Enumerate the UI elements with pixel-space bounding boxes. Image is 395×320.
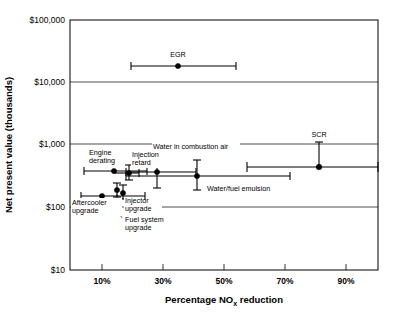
- aftercooler-upgrade-label-line2: upgrade: [72, 206, 98, 215]
- y-axis-title: Net present value (thousands): [3, 77, 14, 213]
- chart-figure: Net present value (thousands) $100,000 $…: [0, 0, 395, 320]
- y-tick-label-10: $10: [51, 265, 65, 275]
- injector-upgrade-marker[interactable]: [120, 190, 125, 195]
- x-axis-title: Percentage NOx reduction: [165, 294, 283, 307]
- injector-upgrade-label-line2: upgrade: [125, 204, 151, 213]
- chart-svg: Net present value (thousands) $100,000 $…: [0, 0, 395, 320]
- water-in-combustion-air-label: Water in combustion air: [153, 142, 229, 151]
- injection-retard-marker[interactable]: [126, 170, 131, 175]
- x-tick-label-90: 90%: [337, 276, 354, 286]
- y-tick-label-100000: $100,000: [30, 15, 66, 25]
- engine-derating-label-line2: derating: [89, 156, 115, 165]
- x-tick-label-10: 10%: [93, 276, 110, 286]
- injection-retard-label-line2: retard: [132, 158, 151, 167]
- x-tick-label-30: 30%: [154, 276, 171, 286]
- x-axis-title-post: reduction: [237, 294, 283, 305]
- fuel-system-upgrade-label-line2: upgrade: [125, 223, 151, 232]
- egr-label: EGR: [170, 50, 186, 59]
- y-tick-label-1000: $1,000: [39, 139, 65, 149]
- scr-marker[interactable]: [316, 164, 322, 170]
- fuel-system-marker[interactable]: [114, 187, 119, 192]
- water-fuel-emulsion-label: Water/fuel emulsion: [207, 184, 270, 193]
- x-tick-label-50: 50%: [215, 276, 232, 286]
- x-axis-title-pre: Percentage NO: [165, 294, 233, 305]
- x-tick-label-70: 70%: [276, 276, 293, 286]
- water-air-marker[interactable]: [154, 169, 159, 174]
- scr-label: SCR: [311, 130, 326, 139]
- y-tick-label-100: $100: [46, 202, 65, 212]
- y-tick-label-10000: $10,000: [34, 77, 65, 87]
- egr-marker[interactable]: [175, 63, 180, 68]
- water-fuel-marker[interactable]: [194, 173, 199, 178]
